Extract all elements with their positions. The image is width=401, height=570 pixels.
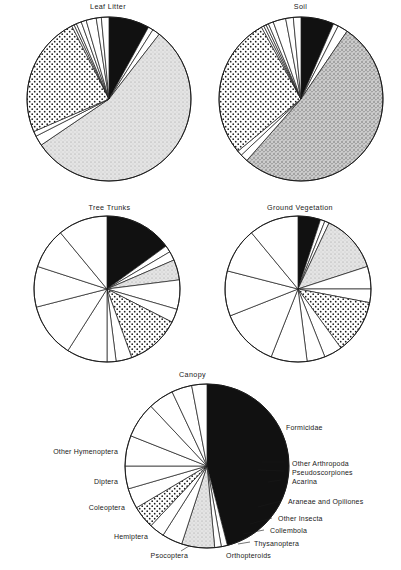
panel-ground-vegetation: Ground Vegetation: [210, 203, 390, 378]
canopy-label-other-insecta: Other Insecta: [278, 515, 323, 522]
pie-leaf-litter: [26, 13, 192, 195]
pie-soil: [217, 13, 385, 195]
canopy-label-orthopteroids: Orthopteroids: [226, 552, 271, 559]
slice-group: [125, 384, 289, 548]
pie-svg-tree-trunks: [31, 213, 185, 371]
panel-canopy: Canopy Formicidae Other Arthropoda Pseud…: [0, 370, 401, 570]
pie-svg-leaf-litter: [26, 13, 192, 195]
canopy-label-araneae-opiliones: Araneae and Opiliones: [288, 498, 363, 505]
canopy-label-coleoptera: Coleoptera: [89, 504, 125, 511]
canopy-label-other-arthropoda: Other Arthropoda: [292, 460, 349, 467]
figure-root: Leaf Litter: [0, 0, 401, 570]
canopy-label-diptera: Diptera: [94, 478, 118, 485]
pie-svg-ground-vegetation: [222, 213, 376, 371]
panel-leaf-litter: Leaf Litter: [18, 2, 198, 198]
canopy-label-other-hymenoptera: Other Hymenoptera: [53, 448, 118, 455]
canopy-label-psocoptera: Psocoptera: [151, 552, 188, 559]
panel-title-soil: Soil: [208, 2, 393, 11]
canopy-label-collembola: Collembola: [270, 527, 307, 534]
pie-svg-soil: [217, 13, 385, 195]
slice-group: [27, 17, 191, 181]
pie-ground-vegetation: [222, 213, 376, 371]
slice-group: [225, 216, 371, 362]
panel-soil: Soil: [208, 2, 393, 198]
pie-svg-canopy: [121, 380, 293, 552]
canopy-label-hemiptera: Hemiptera: [114, 533, 148, 540]
panel-tree-trunks: Tree Trunks: [22, 203, 197, 378]
slice-group: [34, 216, 180, 362]
canopy-label-acarina: Acarina: [292, 478, 317, 485]
panel-title-leaf-litter: Leaf Litter: [18, 2, 198, 11]
panel-title-canopy: Canopy: [0, 370, 393, 379]
panel-title-tree-trunks: Tree Trunks: [22, 203, 197, 212]
slice-group: [219, 17, 383, 181]
panel-title-ground-vegetation: Ground Vegetation: [210, 203, 390, 212]
canopy-label-thysanoptera: Thysanoptera: [254, 540, 299, 547]
pie-tree-trunks: [31, 213, 185, 371]
canopy-label-formicidae: Formicidae: [286, 424, 323, 431]
pie-canopy: [121, 380, 293, 552]
canopy-label-pseudoscorpiones: Pseudoscorpiones: [292, 469, 353, 476]
